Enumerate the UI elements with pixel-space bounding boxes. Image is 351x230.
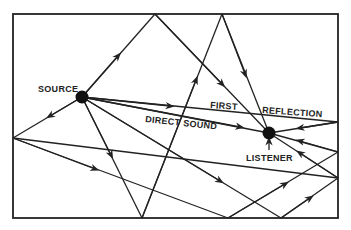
reflection-label: REFLECTION <box>262 105 323 119</box>
ray-direct-sound <box>82 97 269 133</box>
source-label: SOURCE <box>38 84 78 94</box>
room-acoustics-diagram: SOURCE LISTENER DIRECT SOUND FIRST REFLE… <box>0 0 351 230</box>
listener-dot <box>263 127 276 140</box>
listener-label: LISTENER <box>246 153 293 163</box>
first-label: FIRST <box>210 100 238 112</box>
